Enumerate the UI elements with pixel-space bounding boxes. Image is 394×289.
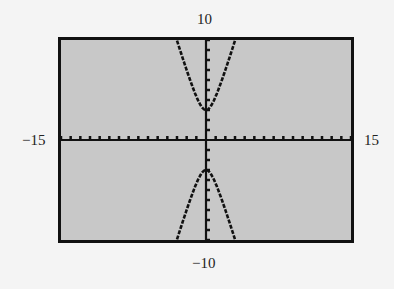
- xmax-label: 15: [364, 133, 379, 148]
- xmin-label: −15: [22, 133, 45, 148]
- calculator-graph-screen: [58, 37, 354, 243]
- hyperbola-plot: [61, 40, 351, 240]
- ymin-label: −10: [192, 256, 215, 271]
- ymax-label: 10: [197, 12, 212, 27]
